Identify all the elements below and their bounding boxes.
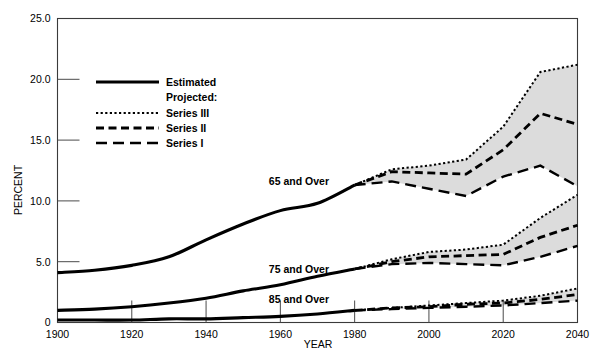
x-tick-label-2040: 2040 (566, 328, 590, 340)
fan-band-75-and-over (355, 195, 578, 269)
y-axis-title: PERCENT (12, 164, 24, 215)
x-tick-label-1980: 1980 (343, 328, 367, 340)
x-axis-title: YEAR (304, 338, 333, 350)
x-tick-label-1960: 1960 (269, 328, 293, 340)
legend-header-projected: Projected: (166, 91, 217, 103)
percent-elderly-population-chart: 05.010.015.020.025.0 1900192019401960198… (0, 0, 603, 354)
annotation-1: 65 and Over (269, 175, 329, 187)
y-tick-label-0: 0 (45, 316, 51, 328)
fan-band-65-and-over (355, 65, 578, 196)
x-tick-label-2000: 2000 (417, 328, 441, 340)
x-tick-label-1940: 1940 (194, 328, 218, 340)
chart-legend: Estimated Projected: Series III Series I… (96, 76, 217, 149)
y-tick-label-20.0: 20.0 (30, 73, 51, 85)
x-tick-label-1920: 1920 (120, 328, 144, 340)
data-lines-layer (58, 65, 578, 320)
y-tick-label-5.0: 5.0 (36, 256, 51, 268)
x-tick-label-2020: 2020 (492, 328, 516, 340)
chart-container: 05.010.015.020.025.0 1900192019401960198… (0, 0, 603, 354)
y-tick-label-15.0: 15.0 (30, 134, 51, 146)
projection-fan-bands (355, 65, 578, 311)
y-axis-ticks (58, 79, 80, 261)
legend-label-estimated: Estimated (166, 76, 216, 88)
y-tick-label-25.0: 25.0 (30, 12, 51, 24)
legend-label-series-3: Series III (166, 107, 209, 119)
y-axis-tick-labels: 05.010.015.020.025.0 (30, 12, 51, 328)
annotation-3: 85 and Over (269, 293, 329, 305)
annotation-2: 75 and Over (269, 263, 329, 275)
x-tick-label-1900: 1900 (46, 328, 70, 340)
legend-label-series-1: Series I (166, 137, 203, 149)
y-tick-label-10.0: 10.0 (30, 195, 51, 207)
legend-label-series-2: Series II (166, 122, 206, 134)
estimated-line-1 (58, 185, 355, 273)
